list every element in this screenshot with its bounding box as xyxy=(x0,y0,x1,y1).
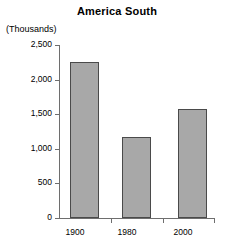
y-tick-mark xyxy=(55,80,60,81)
y-axis-line xyxy=(59,45,60,218)
y-tick-mark xyxy=(55,45,60,46)
y-tick-mark xyxy=(55,114,60,115)
x-tick-mark xyxy=(214,218,215,223)
x-axis-label-1900: 1900 xyxy=(55,227,95,238)
y-tick-label: 2,500 xyxy=(31,39,52,50)
y-tick-label: 2,000 xyxy=(31,74,52,85)
bar-1900 xyxy=(70,62,99,218)
y-tick-label: 1,500 xyxy=(31,108,52,119)
x-axis-label-1980: 1980 xyxy=(107,227,147,238)
x-tick-mark xyxy=(163,218,164,223)
bar-1980 xyxy=(122,137,151,218)
bar-2000 xyxy=(178,109,207,218)
y-tick-mark xyxy=(55,149,60,150)
y-tick-mark xyxy=(55,183,60,184)
x-axis-line xyxy=(59,218,215,219)
x-tick-mark xyxy=(111,218,112,223)
y-tick-label: 1,000 xyxy=(31,143,52,154)
bar-chart-figure: America South (Thousands) 0 500 1,000 1,… xyxy=(0,0,234,249)
plot-area: 0 500 1,000 1,500 2,000 2,500 xyxy=(59,45,215,218)
y-tick-label: 0 xyxy=(47,212,52,223)
y-tick-label: 500 xyxy=(38,177,52,188)
y-tick-mark xyxy=(55,218,60,219)
x-axis-label-2000: 2000 xyxy=(163,227,203,238)
y-axis-unit-label: (Thousands) xyxy=(6,24,57,35)
chart-title: America South xyxy=(0,5,234,18)
